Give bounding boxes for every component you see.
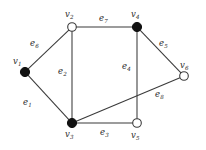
graph-edge-e1: [28, 75, 70, 120]
edge-label-e2: e2: [58, 67, 67, 76]
vertex-label-v2: v2: [65, 10, 73, 19]
vertex-label-subscript: 6: [185, 65, 189, 71]
graph-edge-e5: [140, 30, 182, 73]
graph-vertex-v3: [67, 118, 76, 127]
edge-label-e5: e5: [159, 39, 168, 48]
edge-label-e8: e8: [155, 90, 164, 99]
edge-label-e7: e7: [99, 14, 108, 23]
edge-label-subscript: 1: [28, 102, 32, 108]
vertex-label-v4: v4: [131, 10, 139, 19]
edge-label-subscript: 8: [160, 94, 164, 100]
edge-label-e1: e1: [23, 98, 32, 107]
graph-figure: e1e2e3e4e5e6e7e8v1v2v3v4v5v6: [0, 0, 206, 150]
edge-label-subscript: 6: [35, 43, 39, 49]
graph-vertex-v5: [133, 119, 142, 128]
edge-label-e4: e4: [122, 62, 131, 71]
edge-label-subscript: 7: [104, 18, 108, 24]
vertex-label-v6: v6: [180, 61, 188, 70]
graph-vertex-v2: [68, 23, 77, 32]
vertex-label-subscript: 4: [136, 14, 140, 20]
graph-edge-e6: [28, 30, 69, 70]
graph-edge-e8: [76, 77, 181, 121]
edge-label-e3: e3: [100, 128, 109, 137]
graph-vertex-v1: [20, 67, 29, 76]
vertex-label-subscript: 1: [18, 61, 22, 67]
vertex-label-v5: v5: [131, 131, 139, 140]
graph-vertex-v6: [180, 72, 189, 81]
vertex-label-v1: v1: [13, 57, 21, 66]
edge-label-subscript: 3: [105, 132, 109, 138]
edge-label-subscript: 4: [127, 66, 131, 72]
edge-label-subscript: 2: [63, 71, 67, 77]
vertex-label-v3: v3: [65, 130, 73, 139]
vertex-label-subscript: 2: [70, 14, 74, 20]
vertex-label-subscript: 5: [136, 135, 140, 141]
vertex-label-subscript: 3: [70, 134, 74, 140]
edge-label-e6: e6: [30, 39, 39, 48]
graph-vertex-v4: [132, 22, 141, 31]
edge-label-subscript: 5: [164, 43, 168, 49]
